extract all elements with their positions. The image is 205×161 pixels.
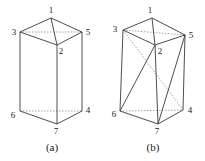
edge-1-2	[152, 18, 155, 45]
vertex-label-1: 1	[148, 5, 153, 15]
edge-6-7	[120, 111, 158, 124]
figure-a-prism: 1234567(a)	[11, 5, 91, 154]
vertex-label-7: 7	[155, 126, 160, 136]
figure-caption-b: (b)	[147, 141, 160, 154]
edge-3-2	[20, 32, 57, 45]
vertex-label-5: 5	[189, 30, 194, 40]
vertex-label-1: 1	[49, 5, 54, 15]
vertex-label-7: 7	[54, 126, 59, 136]
edge-1-3	[123, 18, 152, 30]
edge-1-5	[51, 18, 82, 32]
edge-1-2	[51, 18, 57, 45]
vertex-label-5: 5	[86, 27, 91, 37]
edge-7-4	[57, 111, 82, 124]
hidden-edge-6-4	[120, 110, 183, 111]
figure-b-prism-tetrahedra: 1234567(b)	[112, 5, 194, 154]
edge-6-7	[20, 111, 57, 124]
vertex-label-4: 4	[86, 105, 91, 115]
edge-2-7	[155, 45, 158, 124]
prism-decomposition-diagram: 1234567(a) 1234567(b)	[0, 0, 205, 161]
edge-3-6	[120, 30, 123, 111]
edge-2-6	[120, 45, 155, 111]
edge-1-3	[20, 18, 51, 32]
edge-2-5	[57, 32, 82, 45]
vertex-label-2: 2	[158, 46, 163, 56]
edge-2-5	[155, 35, 185, 45]
vertex-label-2: 2	[59, 46, 64, 56]
vertex-label-4: 4	[188, 105, 193, 115]
vertex-label-6: 6	[112, 109, 117, 119]
vertex-label-3: 3	[113, 24, 118, 34]
vertex-label-3: 3	[12, 27, 17, 37]
figure-caption-a: (a)	[46, 141, 59, 154]
edge-5-4	[183, 35, 185, 110]
vertex-label-6: 6	[11, 110, 16, 120]
